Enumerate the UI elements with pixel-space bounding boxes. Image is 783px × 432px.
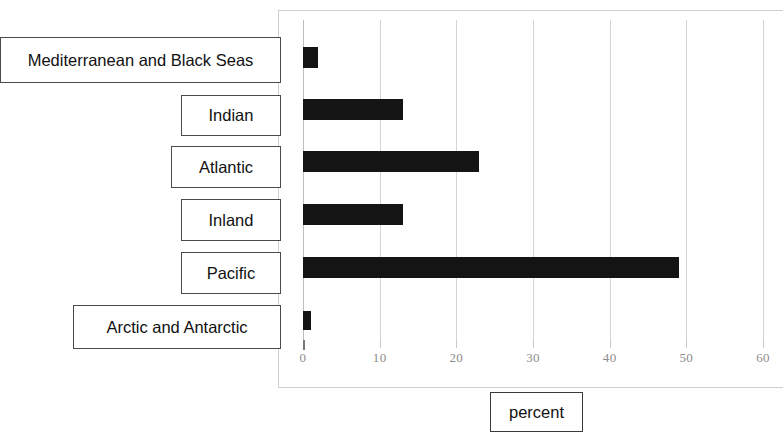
tickmark-20 (456, 340, 457, 348)
x-tick-label-40: 40 (590, 350, 630, 366)
tickmark-40 (610, 340, 611, 348)
tickmark-30 (533, 340, 534, 348)
category-label-inland: Inland (181, 199, 281, 241)
gridline-50 (686, 20, 687, 340)
category-label-atlantic: Atlantic (171, 146, 281, 188)
gridline-10 (380, 20, 381, 340)
category-label-pacific: Pacific (181, 252, 281, 294)
bar-arctic-and-antarctic (303, 311, 311, 330)
x-tick-label-20: 20 (436, 350, 476, 366)
gridline-60 (763, 20, 764, 340)
gridline-40 (610, 20, 611, 340)
x-axis-title-box: percent (490, 392, 583, 432)
x-tick-label-10: 10 (360, 350, 400, 366)
x-tick-label-30: 30 (513, 350, 553, 366)
tickmark-10 (380, 340, 381, 348)
gridline-20 (456, 20, 457, 340)
bar-inland (303, 204, 403, 225)
category-label-mediterranean-and-black-seas: Mediterranean and Black Seas (0, 37, 281, 83)
x-axis-title-text: percent (509, 403, 564, 422)
x-tick-label-50: 50 (666, 350, 706, 366)
plot-frame (278, 10, 783, 388)
x-tick-label-60: 60 (743, 350, 783, 366)
bar-atlantic (303, 151, 479, 172)
gridline-0 (303, 20, 304, 340)
tickmark-0 (303, 340, 305, 350)
tickmark-50 (686, 340, 687, 348)
bar-indian (303, 99, 403, 120)
gridline-30 (533, 20, 534, 340)
tickmark-60 (763, 340, 764, 348)
category-label-indian: Indian (181, 95, 281, 136)
bar-mediterranean-and-black-seas (303, 47, 318, 68)
x-tick-label-0: 0 (283, 350, 323, 366)
category-label-arctic-and-antarctic: Arctic and Antarctic (73, 305, 281, 349)
bar-pacific (303, 257, 679, 278)
